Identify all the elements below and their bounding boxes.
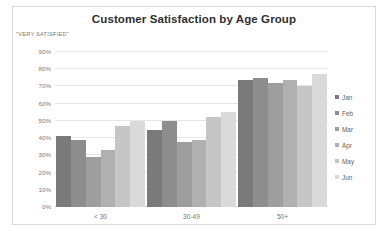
y-axis-tick-label: 90%	[39, 48, 51, 55]
x-axis-category-label: 50+	[237, 213, 328, 220]
y-axis-tick-label: 70%	[39, 82, 51, 89]
y-axis-tick-label: 10%	[39, 185, 51, 192]
y-axis-tick-label: 40%	[39, 134, 51, 141]
y-axis-tick-label: 30%	[39, 151, 51, 158]
bar-cluster: 50+	[237, 52, 328, 207]
bar[interactable]	[162, 121, 177, 207]
bar-cluster: < 30	[55, 52, 146, 207]
bar[interactable]	[56, 136, 71, 207]
legend-label: Apr	[342, 142, 352, 149]
legend-swatch-icon	[335, 127, 339, 131]
legend-item-jan[interactable]: Jan	[335, 89, 375, 105]
legend-label: Mar	[342, 126, 353, 133]
legend-item-may[interactable]: May	[335, 153, 375, 169]
legend-label: Feb	[342, 110, 353, 117]
x-axis-category-label: < 30	[55, 213, 146, 220]
bar[interactable]	[115, 126, 130, 207]
y-axis-tick-label: 60%	[39, 99, 51, 106]
plot-area: 0%10%20%30%40%50%60%70%80%90% < 3030-495…	[55, 52, 328, 207]
legend-label: Jan	[342, 94, 352, 101]
bar[interactable]	[147, 130, 162, 208]
bar[interactable]	[312, 74, 327, 207]
bar[interactable]	[253, 78, 268, 207]
legend-item-apr[interactable]: Apr	[335, 137, 375, 153]
bar[interactable]	[177, 142, 192, 207]
y-axis-tick-label: 50%	[39, 116, 51, 123]
bars-layer: < 3030-4950+	[55, 52, 328, 207]
bar[interactable]	[130, 121, 145, 207]
bar[interactable]	[206, 117, 221, 207]
legend-swatch-icon	[335, 159, 339, 163]
bar[interactable]	[238, 80, 253, 207]
bar[interactable]	[71, 140, 86, 207]
bar-cluster: 30-49	[146, 52, 237, 207]
legend-swatch-icon	[335, 143, 339, 147]
bar[interactable]	[86, 157, 101, 207]
chart-card: Customer Satisfaction by Age Group "VERY…	[12, 6, 376, 225]
bar[interactable]	[283, 80, 298, 207]
bar[interactable]	[221, 112, 236, 207]
bar[interactable]	[101, 150, 116, 207]
bar[interactable]	[297, 86, 312, 207]
legend-item-mar[interactable]: Mar	[335, 121, 375, 137]
bar[interactable]	[192, 140, 207, 207]
legend-item-jun[interactable]: Jun	[335, 169, 375, 185]
y-axis-tick-label: 80%	[39, 65, 51, 72]
bar[interactable]	[268, 83, 283, 207]
chart-legend: JanFebMarAprMayJun	[335, 89, 375, 185]
x-axis-category-label: 30-49	[146, 213, 237, 220]
legend-swatch-icon	[335, 95, 339, 99]
plot-wrapper: 0%10%20%30%40%50%60%70%80%90% < 3030-495…	[13, 7, 375, 224]
legend-label: Jun	[342, 174, 352, 181]
legend-swatch-icon	[335, 175, 339, 179]
y-axis-tick-label: 0%	[42, 203, 51, 210]
legend-item-feb[interactable]: Feb	[335, 105, 375, 121]
legend-swatch-icon	[335, 111, 339, 115]
legend-label: May	[342, 158, 354, 165]
y-axis-tick-label: 20%	[39, 168, 51, 175]
